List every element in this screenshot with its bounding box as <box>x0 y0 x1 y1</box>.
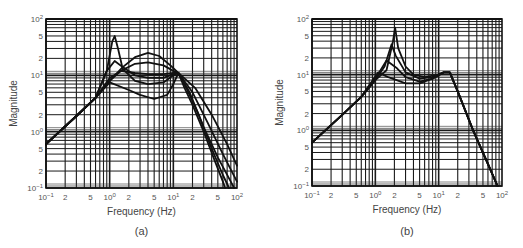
x-axis-label: Frequency (Hz) <box>373 204 442 215</box>
y-tick-label: 10−1 <box>27 183 43 193</box>
x-tick-label: 5 <box>481 191 486 200</box>
y-tick-label: 2 <box>39 167 44 176</box>
plot-frame <box>46 19 237 188</box>
x-tick-label: 2 <box>127 193 132 202</box>
y-tick-label: 2 <box>39 54 44 63</box>
x-axis-label: Frequency (Hz) <box>107 206 176 217</box>
x-tick-label: 10−1 <box>304 190 320 200</box>
x-tick-label: 2 <box>456 191 461 200</box>
x-tick-label: 2 <box>63 193 68 202</box>
plot-frame <box>312 19 502 186</box>
grid <box>46 19 237 188</box>
x-tick-label: 2 <box>392 191 397 200</box>
panel-caption: (b) <box>400 225 413 237</box>
y-tick-label: 5 <box>305 87 310 96</box>
y-tick-label: 10−1 <box>293 181 309 191</box>
series-group <box>312 28 498 186</box>
series-line-curve-2 <box>46 61 229 188</box>
y-tick-label: 2 <box>305 110 310 119</box>
panel-b: 10−125100251012510210−1251002510125102Fr… <box>274 14 509 237</box>
y-tick-label: 102 <box>297 14 310 24</box>
y-tick-label: 101 <box>31 70 44 80</box>
x-tick-label: 5 <box>88 193 93 202</box>
y-tick-label: 2 <box>305 165 310 174</box>
x-tick-label: 5 <box>417 191 422 200</box>
y-tick-label: 102 <box>31 14 44 24</box>
y-tick-label: 2 <box>39 111 44 120</box>
y-tick-labels: 10−1251002510125102 <box>293 14 309 191</box>
y-tick-label: 100 <box>31 127 44 137</box>
grid <box>312 19 502 186</box>
x-tick-label: 100 <box>104 192 117 202</box>
x-tick-label: 102 <box>496 190 509 200</box>
y-tick-label: 5 <box>39 145 44 154</box>
x-tick-labels: 10−1251002510125102 <box>38 192 244 202</box>
series-line-curve-4 <box>46 62 237 181</box>
y-tick-label: 5 <box>39 88 44 97</box>
x-tick-label: 5 <box>152 193 157 202</box>
panel-a: 10−125100251012510210−1251002510125102Fr… <box>8 14 244 237</box>
x-tick-label: 102 <box>231 192 244 202</box>
x-tick-label: 101 <box>433 190 446 200</box>
x-tick-label: 101 <box>167 192 180 202</box>
panel-caption: (a) <box>135 225 148 237</box>
x-tick-label: 2 <box>190 193 195 202</box>
y-tick-labels: 10−1251002510125102 <box>27 14 43 193</box>
x-tick-label: 5 <box>216 193 221 202</box>
y-tick-label: 100 <box>297 125 310 135</box>
x-tick-label: 5 <box>354 191 359 200</box>
x-tick-label: 10−1 <box>38 192 54 202</box>
y-tick-label: 101 <box>297 70 310 80</box>
series-line-curve-1 <box>312 28 498 186</box>
y-tick-label: 5 <box>305 32 310 41</box>
x-tick-labels: 10−1251002510125102 <box>304 190 509 200</box>
y-axis-label: Magnitude <box>8 80 19 127</box>
figure: 10−125100251012510210−1251002510125102Fr… <box>0 0 523 248</box>
y-tick-label: 2 <box>305 54 310 63</box>
y-tick-label: 5 <box>305 143 310 152</box>
x-tick-label: 100 <box>369 190 382 200</box>
y-axis-label: Magnitude <box>274 79 285 126</box>
y-tick-label: 5 <box>39 32 44 41</box>
x-tick-label: 2 <box>329 191 334 200</box>
